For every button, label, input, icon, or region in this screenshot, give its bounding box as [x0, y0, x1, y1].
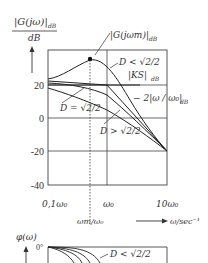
curve-asymptote [48, 81, 167, 151]
resonance-peak-point [88, 57, 92, 61]
svg-text:|KS|: |KS| [128, 70, 147, 81]
svg-text:D < √2/2: D < √2/2 [118, 57, 160, 67]
bode-diagram: |G(jω)| dB dB 20 0 -20 -40 [0, 0, 208, 263]
x-axis-label: ω/sec⁻¹ [136, 217, 200, 226]
magnitude-y-label: |G(jω)| dB dB [12, 16, 57, 73]
x-tick-labels: 0,1ω₀ ω₀ 10ω₀ ωm/ω₀ [42, 199, 179, 226]
svg-text:φ(ω): φ(ω) [16, 232, 37, 242]
magnitude-plot-frame [48, 50, 167, 185]
svg-text:20: 20 [34, 80, 44, 91]
svg-text:ω₀: ω₀ [103, 199, 114, 209]
svg-text:ωm/ω₀: ωm/ω₀ [77, 217, 104, 226]
svg-text:dB: dB [180, 98, 189, 105]
svg-text:-40: -40 [31, 180, 44, 191]
svg-text:|G(jω)|: |G(jω)| [14, 16, 48, 28]
svg-text:dB: dB [151, 75, 160, 82]
y-tick-labels: 20 0 -20 -40 [31, 80, 44, 191]
svg-text:0,1ω₀: 0,1ω₀ [42, 199, 68, 209]
svg-text:dB: dB [149, 35, 158, 42]
svg-text:10ω₀: 10ω₀ [156, 199, 179, 209]
svg-text:0°: 0° [36, 243, 43, 252]
svg-text:dB: dB [48, 22, 57, 29]
svg-text:D < √2/2: D < √2/2 [109, 249, 151, 259]
svg-text:-20: -20 [31, 146, 44, 157]
svg-text:dB: dB [28, 33, 41, 43]
svg-text:D > √2/2: D > √2/2 [99, 126, 141, 136]
grid-lines [48, 50, 167, 185]
svg-text:− 2|ω / ω₀|: − 2|ω / ω₀| [133, 93, 182, 104]
svg-text:0: 0 [39, 113, 44, 124]
phase-plot: φ(ω) 0° D < √2/2 [16, 232, 167, 263]
svg-text:|G(jωm)|: |G(jωm)| [110, 30, 149, 41]
svg-text:D = √2/2: D = √2/2 [59, 103, 101, 113]
svg-text:ω/sec⁻¹: ω/sec⁻¹ [170, 217, 200, 226]
